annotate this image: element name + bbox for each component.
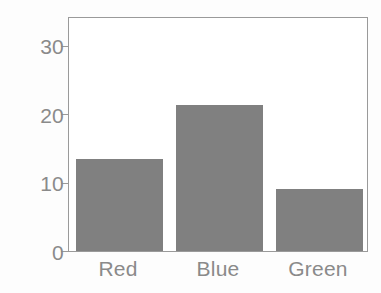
y-tick-label: 20 [40,105,64,126]
y-tick-label: 0 [52,242,64,263]
bar [276,189,363,251]
x-tick-label: Green [268,258,368,279]
bar-chart-figure: 0102030 RedBlueGreen [0,0,381,293]
bar [76,159,163,251]
bar [176,105,263,251]
x-tick-label: Red [68,258,168,279]
plot-area [68,17,368,252]
bars-layer [69,18,367,251]
x-tick-label: Blue [168,258,268,279]
y-tick-label: 10 [40,173,64,194]
y-tick-label: 30 [40,36,64,57]
